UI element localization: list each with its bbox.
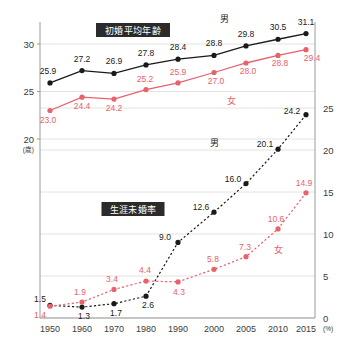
axis-x-tick-1970: 1970 [104,324,124,334]
data-point-marriage_age-female-2000 [211,70,216,75]
value-label-lifetime_unmarried_rate-female-2015: 14.9 [296,178,313,188]
data-point-marriage_age-male-2005 [243,43,248,48]
data-point-marriage_age-female-1970 [111,97,116,102]
data-point-lifetime_unmarried_rate-female-1970 [111,287,116,292]
value-label-lifetime_unmarried_rate-female-2005: 7.3 [239,242,251,252]
value-label-marriage_age-female-2000: 27.0 [208,76,225,86]
axis-x-tick-2015: 2015 [296,324,316,334]
axis-x-tick-2000: 2000 [204,324,224,334]
value-label-marriage_age-female-2005: 28.0 [240,66,257,76]
axis-right-tick-25: 25 [323,103,334,114]
axis-x-tick-1990: 1990 [168,324,188,334]
data-point-marriage_age-male-1980 [143,62,148,67]
value-label-lifetime_unmarried_rate-male-1980: 2.6 [142,300,154,310]
value-label-marriage_age-female-1970: 24.2 [106,103,123,113]
value-label-lifetime_unmarried_rate-male-1960: 1.3 [78,311,90,321]
data-point-lifetime_unmarried_rate-male-1960 [79,304,84,309]
data-point-marriage_age-female-1960 [79,95,84,100]
data-point-lifetime_unmarried_rate-male-2000 [211,210,216,215]
data-point-lifetime_unmarried_rate-female-1980 [143,278,148,283]
value-label-lifetime_unmarried_rate-female-2010: 10.6 [268,214,285,224]
data-point-marriage_age-female-2010 [275,53,280,58]
data-point-marriage_age-male-1970 [111,71,116,76]
value-label-marriage_age-male-1980: 27.8 [138,48,155,58]
value-label-marriage_age-female-1990: 25.9 [170,67,187,77]
value-label-marriage_age-male-1950: 25.9 [40,66,57,76]
data-point-lifetime_unmarried_rate-female-1960 [79,299,84,304]
value-label-lifetime_unmarried_rate-male-2005: 16.0 [225,174,242,184]
data-point-lifetime_unmarried_rate-male-2010 [275,147,280,152]
data-point-marriage_age-female-1990 [175,80,180,85]
data-point-lifetime_unmarried_rate-male-2015 [303,112,308,117]
badge-marriage-age-text: 初婚平均年齢 [105,25,161,36]
value-label-lifetime_unmarried_rate-female-1950: 1.4 [34,310,46,320]
axis-right-tick-15: 15 [323,187,334,198]
value-label-lifetime_unmarried_rate-female-1960: 1.9 [74,287,86,297]
value-label-marriage_age-male-1970: 26.9 [106,56,123,66]
value-label-marriage_age-male-2010: 30.5 [270,22,287,32]
value-label-marriage_age-female-1980: 25.2 [137,74,154,84]
data-point-marriage_age-male-2015 [303,31,308,36]
data-point-lifetime_unmarried_rate-male-2005 [243,181,248,186]
series-label-rate-female: 女 [274,244,283,255]
chart-figure: 302520(歳)2520151050(%)195019601970198019… [0,0,361,345]
series-label-rate-male: 男 [210,138,219,148]
value-label-marriage_age-male-1990: 28.4 [170,42,187,52]
value-label-lifetime_unmarried_rate-male-2015: 24.2 [284,106,301,116]
axis-left-unit: (歳) [23,145,34,154]
value-label-lifetime_unmarried_rate-male-1970: 1.7 [110,308,122,318]
axis-x-tick-2010: 2010 [268,324,288,334]
data-point-marriage_age-male-2000 [211,53,216,58]
value-label-marriage_age-male-2005: 29.8 [238,29,255,39]
value-label-marriage_age-female-2010: 28.8 [272,58,289,68]
badge-unmarried-rate-text: 生涯未婚率 [110,204,157,215]
axis-x-tick-2005: 2005 [236,324,256,334]
value-label-marriage_age-male-2000: 28.8 [206,38,223,48]
value-label-lifetime_unmarried_rate-male-1950: 1.5 [34,294,46,304]
value-label-lifetime_unmarried_rate-male-2010: 20.1 [257,139,274,149]
data-point-marriage_age-male-1990 [175,57,180,62]
axis-x-tick-1960: 1960 [72,324,92,334]
axis-right-tick-10: 10 [323,229,334,240]
data-point-lifetime_unmarried_rate-male-1970 [111,301,116,306]
chart-canvas: 302520(歳)2520151050(%)195019601970198019… [0,0,361,345]
data-point-lifetime_unmarried_rate-female-2010 [275,226,280,231]
data-point-marriage_age-male-1950 [47,80,52,85]
axis-left-tick-30: 30 [23,39,34,50]
value-label-marriage_age-male-2015: 31.1 [298,17,315,27]
data-point-lifetime_unmarried_rate-female-2015 [303,190,308,195]
data-point-lifetime_unmarried_rate-female-2000 [211,267,216,272]
data-point-marriage_age-female-2015 [303,47,308,52]
value-label-marriage_age-male-1960: 27.2 [74,54,91,64]
data-point-lifetime_unmarried_rate-male-1990 [175,240,180,245]
axis-right-tick-0: 0 [323,313,328,324]
data-point-marriage_age-female-1950 [47,108,52,113]
axis-left-tick-20: 20 [23,134,34,145]
data-point-marriage_age-male-1960 [79,68,84,73]
value-label-marriage_age-female-2015: 29.4 [304,53,321,63]
axis-right-unit: (%) [323,325,333,333]
data-point-marriage_age-male-2010 [275,37,280,42]
axis-x-tick-1950: 1950 [40,324,60,334]
axis-right-tick-5: 5 [323,271,328,282]
data-point-lifetime_unmarried_rate-female-1990 [175,279,180,284]
data-point-lifetime_unmarried_rate-female-2005 [243,254,248,259]
series-label-marriage-male: 男 [220,14,229,24]
data-point-lifetime_unmarried_rate-female-1950 [47,304,52,309]
data-point-lifetime_unmarried_rate-male-1980 [143,294,148,299]
value-label-lifetime_unmarried_rate-female-2000: 5.8 [207,254,219,264]
value-label-lifetime_unmarried_rate-male-1990: 9.0 [159,232,171,242]
value-label-lifetime_unmarried_rate-female-1990: 4.3 [173,287,185,297]
data-point-marriage_age-female-1980 [143,87,148,92]
value-label-lifetime_unmarried_rate-female-1980: 4.4 [139,265,151,275]
axis-right-tick-20: 20 [323,145,334,156]
value-label-lifetime_unmarried_rate-male-2000: 12.6 [193,202,210,212]
value-label-lifetime_unmarried_rate-female-1970: 3.4 [106,274,118,284]
axis-left-tick-25: 25 [23,86,34,97]
axis-x-tick-1980: 1980 [136,324,156,334]
series-label-marriage-female: 女 [227,95,236,106]
data-point-marriage_age-female-2005 [243,60,248,65]
value-label-marriage_age-female-1960: 24.4 [74,101,91,111]
value-label-marriage_age-female-1950: 23.0 [40,115,57,125]
